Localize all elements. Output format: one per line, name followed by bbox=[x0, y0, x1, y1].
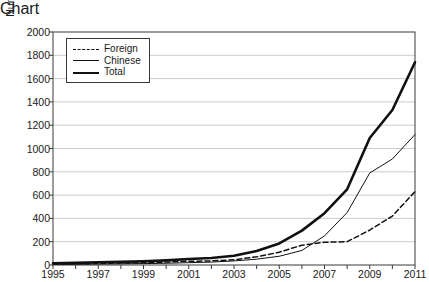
dashed-line-icon bbox=[73, 44, 99, 54]
legend-label-foreign: Foreign bbox=[104, 43, 138, 54]
legend-label-total: Total bbox=[104, 66, 125, 77]
legend-label-chinese: Chinese bbox=[104, 55, 141, 66]
legend-item-foreign: Foreign bbox=[73, 43, 141, 55]
data-series bbox=[53, 62, 415, 264]
thin-line-icon bbox=[73, 55, 99, 65]
y-axis-tick-marks bbox=[49, 32, 53, 265]
thick-line-icon bbox=[73, 67, 99, 77]
series-line-foreign bbox=[53, 192, 415, 264]
plot-area bbox=[0, 18, 429, 282]
series-line-chinese bbox=[53, 135, 415, 265]
patents-line-chart: Number of invention patents granted in C… bbox=[0, 18, 429, 282]
legend-item-chinese: Chinese bbox=[73, 55, 141, 67]
series-line-total bbox=[53, 62, 415, 263]
legend-item-total: Total bbox=[73, 66, 141, 78]
x-axis-tick-marks bbox=[53, 265, 415, 269]
legend: Foreign Chinese Total bbox=[66, 38, 150, 83]
gridlines bbox=[53, 55, 415, 241]
